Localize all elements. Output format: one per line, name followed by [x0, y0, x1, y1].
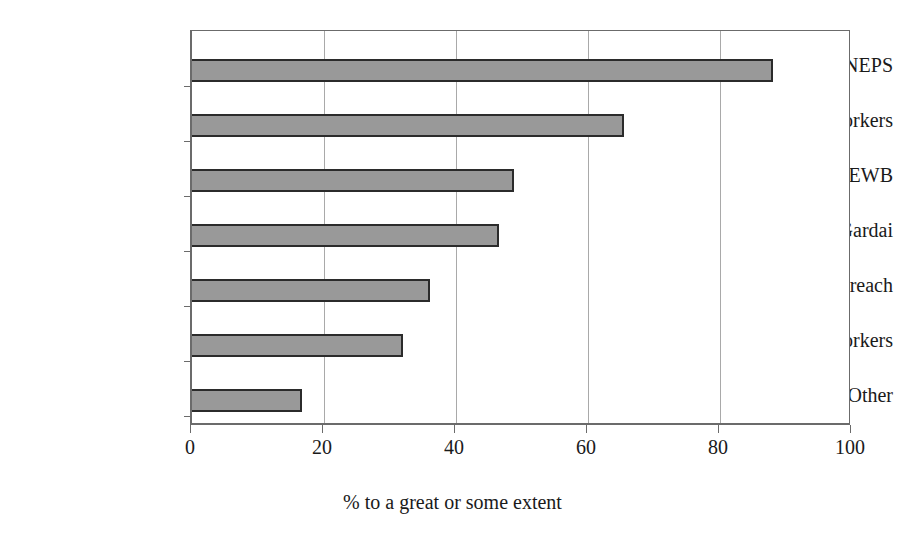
x-axis-tick-label: 80	[708, 437, 728, 457]
y-axis-tick	[184, 416, 192, 417]
bar-youthreach[interactable]	[192, 279, 430, 302]
bar-neps[interactable]	[192, 59, 773, 82]
x-axis-tick	[586, 425, 587, 433]
x-axis-tick-label: 60	[576, 437, 596, 457]
bar-row	[192, 318, 849, 373]
y-axis-tick	[184, 251, 192, 252]
bar-row	[192, 98, 849, 153]
bar-other[interactable]	[192, 389, 302, 412]
x-axis-tick	[322, 425, 323, 433]
bar-row	[192, 208, 849, 263]
bar-row	[192, 373, 849, 428]
bar-row	[192, 263, 849, 318]
y-axis-tick	[184, 361, 192, 362]
x-axis-tick-label: 20	[312, 437, 332, 457]
y-axis-tick	[184, 196, 192, 197]
x-axis-tick-label: 0	[185, 437, 195, 457]
y-axis-tick	[184, 306, 192, 307]
x-axis-tick-label: 100	[835, 437, 865, 457]
bar-social-workers[interactable]	[192, 114, 624, 137]
x-axis-tick	[454, 425, 455, 433]
x-axis-tick	[718, 425, 719, 433]
plot-area	[190, 30, 850, 425]
y-axis-tick	[184, 86, 192, 87]
bar-jlos-gardai[interactable]	[192, 224, 499, 247]
bar-row	[192, 153, 849, 208]
x-axis-tick-label: 40	[444, 437, 464, 457]
bar-chart: NEPS Social workers NEWB JLOs/Gardai You…	[0, 0, 905, 546]
y-axis-tick	[184, 141, 192, 142]
bar-newb[interactable]	[192, 169, 514, 192]
bar-row	[192, 43, 849, 98]
bar-youth-workers[interactable]	[192, 334, 403, 357]
x-axis-tick	[850, 425, 851, 433]
x-axis-tick	[190, 425, 191, 433]
x-axis-title: % to a great or some extent	[0, 492, 905, 512]
